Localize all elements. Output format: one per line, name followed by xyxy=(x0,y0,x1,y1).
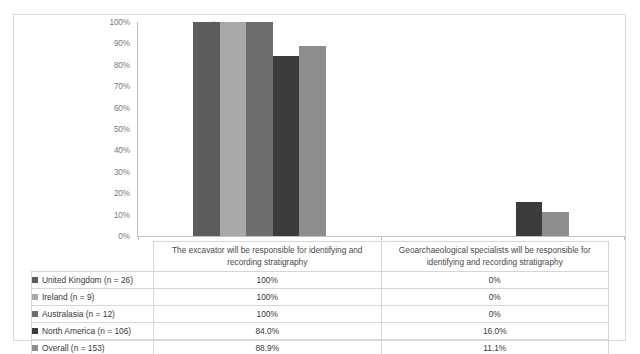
legend-swatch-icon xyxy=(32,328,38,334)
y-axis-tick-label: 50% xyxy=(114,125,130,134)
x-axis-tick-mark xyxy=(381,236,382,240)
legend-cell: Ireland (n = 9) xyxy=(32,289,154,306)
y-axis-tick-label: 0% xyxy=(118,232,130,241)
y-axis-tick-label: 80% xyxy=(114,60,130,69)
table-value-cell: 0% xyxy=(381,306,609,323)
table-value-cell: 16.0% xyxy=(381,323,609,340)
plot-area: 0%10%20%30%40%50%60%70%80%90%100% xyxy=(14,15,625,239)
table-row: United Kingdom (n = 26)100%0% xyxy=(32,272,609,289)
table-header-row: The excavator will be responsible for id… xyxy=(32,242,609,272)
bar xyxy=(542,212,569,236)
legend-label: North America (n = 106) xyxy=(42,326,131,336)
legend-cell: Australasia (n = 12) xyxy=(32,306,154,323)
bar xyxy=(299,46,326,236)
bar-group xyxy=(436,22,569,236)
data-table: The excavator will be responsible for id… xyxy=(31,241,609,354)
y-axis-tick-label: 100% xyxy=(109,18,130,27)
x-axis-tick-mark xyxy=(138,236,139,240)
legend-swatch-icon xyxy=(32,277,38,283)
legend-cell: North America (n = 106) xyxy=(32,323,154,340)
bar-group xyxy=(193,22,326,236)
table-row: Ireland (n = 9)100%0% xyxy=(32,289,609,306)
category-header-2: Geoarchaeological specialists will be re… xyxy=(381,242,609,272)
y-axis: 0%10%20%30%40%50%60%70%80%90%100% xyxy=(92,15,134,239)
legend-label: United Kingdom (n = 26) xyxy=(42,275,133,285)
bar xyxy=(246,22,273,236)
table-value-cell: 0% xyxy=(381,289,609,306)
y-axis-tick-label: 70% xyxy=(114,82,130,91)
legend-cell: Overall (n = 153) xyxy=(32,340,154,354)
legend-swatch-icon xyxy=(32,311,38,317)
bars-container xyxy=(138,22,624,236)
chart-frame: 0%10%20%30%40%50%60%70%80%90%100% The ex… xyxy=(13,14,626,341)
legend-label: Overall (n = 153) xyxy=(42,343,105,353)
table-row: Overall (n = 153)88.9%11.1% xyxy=(32,340,609,354)
bar xyxy=(220,22,247,236)
table-row: Australasia (n = 12)100%0% xyxy=(32,306,609,323)
table-body: United Kingdom (n = 26)100%0%Ireland (n … xyxy=(32,272,609,354)
table-value-cell: 100% xyxy=(154,289,382,306)
legend-cell: United Kingdom (n = 26) xyxy=(32,272,154,289)
category-header-1: The excavator will be responsible for id… xyxy=(154,242,382,272)
bar xyxy=(193,22,220,236)
legend-label: Ireland (n = 9) xyxy=(42,292,94,302)
legend-label: Australasia (n = 12) xyxy=(42,309,115,319)
table-value-cell: 0% xyxy=(381,272,609,289)
legend-swatch-icon xyxy=(32,294,38,300)
table-value-cell: 88.9% xyxy=(154,340,382,354)
bar xyxy=(273,56,300,236)
x-axis-tick-mark xyxy=(624,236,625,240)
y-axis-tick-label: 20% xyxy=(114,189,130,198)
legend-swatch-icon xyxy=(32,345,38,351)
y-axis-tick-label: 40% xyxy=(114,146,130,155)
legend-header-cell xyxy=(32,242,154,272)
y-axis-tick-label: 90% xyxy=(114,39,130,48)
table-value-cell: 11.1% xyxy=(381,340,609,354)
table-value-cell: 84.0% xyxy=(154,323,382,340)
y-axis-tick-label: 30% xyxy=(114,167,130,176)
table-row: North America (n = 106)84.0%16.0% xyxy=(32,323,609,340)
table-value-cell: 100% xyxy=(154,272,382,289)
chart-screenshot: 0%10%20%30%40%50%60%70%80%90%100% The ex… xyxy=(0,0,640,354)
y-axis-tick-label: 10% xyxy=(114,210,130,219)
y-axis-tick-label: 60% xyxy=(114,103,130,112)
bar xyxy=(516,202,543,236)
table-value-cell: 100% xyxy=(154,306,382,323)
